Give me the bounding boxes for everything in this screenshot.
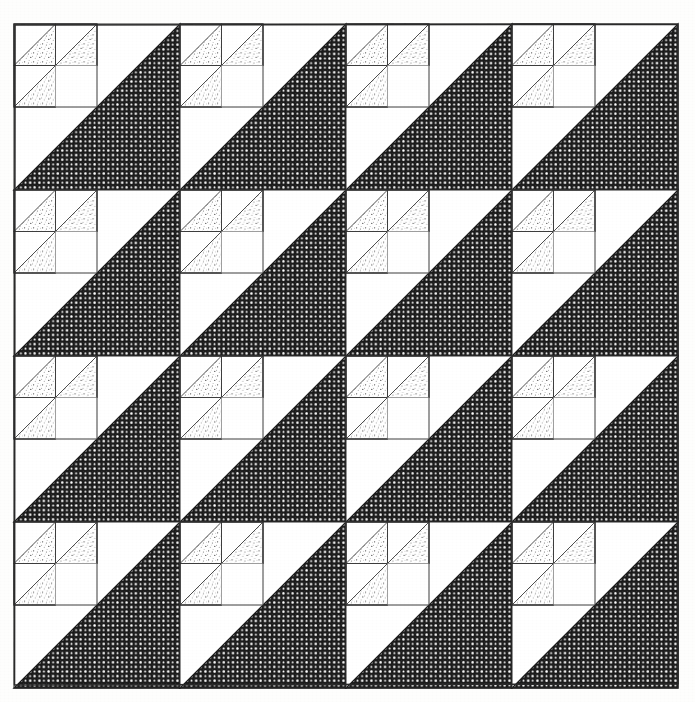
macro-tile — [346, 190, 512, 356]
macro-tile — [512, 190, 678, 356]
macro-tile — [512, 356, 678, 522]
macro-tile — [346, 522, 512, 688]
macro-tile — [180, 190, 346, 356]
macro-tile — [14, 190, 180, 356]
macro-tile — [346, 24, 512, 190]
macro-tile — [512, 522, 678, 688]
macro-tile — [512, 24, 678, 190]
tiling-canvas — [0, 0, 695, 702]
macro-row — [14, 522, 678, 688]
macro-row — [14, 190, 678, 356]
macro-row — [14, 24, 678, 190]
tiling-grid — [14, 24, 678, 688]
macro-tile — [14, 356, 180, 522]
macro-tile — [180, 522, 346, 688]
macro-tile — [14, 522, 180, 688]
macro-tile — [180, 356, 346, 522]
macro-row — [14, 356, 678, 522]
figure-root: Recursive triangular tiling pattern Hand… — [0, 0, 695, 702]
macro-tile — [180, 24, 346, 190]
macro-tile — [14, 24, 180, 190]
macro-tile — [346, 356, 512, 522]
